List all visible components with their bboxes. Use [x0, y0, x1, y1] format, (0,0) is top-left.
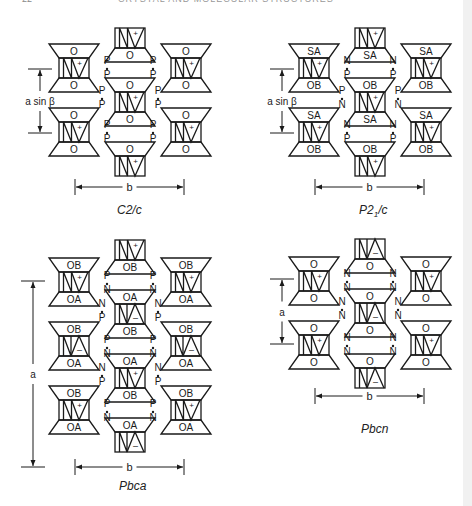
- n-stroke: [416, 271, 424, 291]
- atom-label: O: [422, 259, 430, 270]
- n-stroke: [120, 304, 128, 324]
- arrowhead: [417, 394, 423, 399]
- n-stroke: [360, 28, 368, 48]
- caption-tail: /c: [378, 203, 387, 217]
- contact-atom: P: [344, 69, 351, 80]
- atom-label: OA: [123, 420, 138, 431]
- contact-atom: P: [150, 119, 157, 130]
- atom-label: OB: [179, 324, 194, 335]
- contact-atom: N: [343, 55, 350, 66]
- atom-label: OB: [363, 80, 378, 91]
- sign-label: +: [133, 93, 138, 102]
- atom-label: OB: [67, 388, 82, 399]
- contact-atom: N: [154, 298, 161, 309]
- contact-atom: P: [99, 312, 106, 323]
- contact-atom: N: [338, 296, 345, 307]
- arrowhead: [417, 185, 423, 190]
- contact-atom: P: [155, 312, 162, 323]
- n-stroke: [416, 335, 424, 355]
- contact-atom: P: [99, 99, 106, 110]
- arrowhead: [280, 70, 285, 76]
- contact-atom: N: [389, 282, 396, 293]
- contact-atom: P: [395, 85, 402, 96]
- atom-label: O: [126, 114, 134, 125]
- atom-label: O: [70, 80, 78, 91]
- n-stroke: [304, 58, 312, 78]
- n-stroke: [304, 335, 312, 355]
- contact-atom: P: [104, 55, 111, 66]
- arrowhead: [280, 126, 285, 132]
- atom-label: O: [126, 144, 134, 155]
- panel-pbca: OB+OAOB+OAPNPNOB–OAOB–OAPNPNOB+OAOB+OAPN…: [21, 240, 211, 475]
- contact-atom: P: [150, 133, 157, 144]
- atom-label: OA: [179, 358, 194, 369]
- sign-label: +: [373, 29, 378, 38]
- n-stroke: [176, 122, 184, 142]
- contact-atom: N: [389, 346, 396, 357]
- n-stroke: [64, 272, 72, 292]
- contact-atom: P: [104, 69, 111, 80]
- contact-atom: N: [394, 99, 401, 110]
- contact-atom: P: [150, 55, 157, 66]
- atom-label: O: [366, 325, 374, 336]
- sign-label: +: [77, 123, 82, 132]
- contact-atom: N: [154, 362, 161, 373]
- atom-label: OA: [123, 356, 138, 367]
- n-stroke: [176, 58, 184, 78]
- n-stroke: [360, 368, 368, 388]
- contact-atom: P: [390, 69, 397, 80]
- n-stroke: [120, 92, 128, 112]
- n-stroke: [176, 400, 184, 420]
- contact-atom: N: [343, 332, 350, 343]
- atom-label: OA: [67, 422, 82, 433]
- contact-atom: P: [99, 85, 106, 96]
- dimension-label: a sin β: [25, 96, 55, 107]
- contact-atom: P: [99, 376, 106, 387]
- n-stroke: [120, 28, 128, 48]
- atom-label: OA: [179, 422, 194, 433]
- panel-pbcn: O+OO+OO+OO+O–OO–OO–NNNNNNNNNNNNba: [270, 239, 451, 404]
- caption-p21c: P21/c: [359, 203, 387, 219]
- dimension-label: b: [366, 390, 372, 402]
- contact-atom: P: [104, 119, 111, 130]
- contact-atom: P: [155, 85, 162, 96]
- arrowhead: [38, 70, 43, 76]
- contact-atom: N: [343, 282, 350, 293]
- arrowhead: [76, 465, 82, 470]
- caption-text: P2: [359, 203, 374, 217]
- atom-label: OA: [179, 294, 194, 305]
- sign-label: +: [429, 59, 434, 68]
- contact-atom: P: [339, 85, 346, 96]
- contact-atom: N: [389, 332, 396, 343]
- contact-atom: N: [389, 119, 396, 130]
- sign-label: –: [133, 441, 138, 451]
- n-stroke: [64, 400, 72, 420]
- n-stroke: [64, 336, 72, 356]
- atom-label: O: [310, 323, 318, 334]
- atom-label: SA: [363, 114, 377, 125]
- atom-label: O: [182, 110, 190, 121]
- atom-label: O: [182, 144, 190, 155]
- atom-label: O: [70, 110, 78, 121]
- sign-label: +: [133, 241, 138, 250]
- contact-atom: P: [155, 99, 162, 110]
- atom-label: O: [366, 356, 374, 367]
- sign-label: +: [429, 123, 434, 132]
- n-stroke: [120, 432, 128, 452]
- atom-label: O: [310, 259, 318, 270]
- sign-label: +: [429, 336, 434, 345]
- sign-label: +: [373, 157, 378, 166]
- arrowhead: [31, 460, 36, 466]
- atom-label: SA: [363, 50, 377, 61]
- sign-label: +: [189, 123, 194, 132]
- sign-label: +: [133, 157, 138, 166]
- arrowhead: [76, 185, 82, 190]
- atom-label: OA: [123, 292, 138, 303]
- caption-text: C2/c: [117, 203, 142, 217]
- sign-label: –: [373, 312, 378, 322]
- sign-label: +: [77, 59, 82, 68]
- n-stroke: [360, 303, 368, 323]
- atom-label: OB: [419, 80, 434, 91]
- caption-text: Pbcn: [361, 422, 388, 436]
- atom-label: OB: [123, 390, 138, 401]
